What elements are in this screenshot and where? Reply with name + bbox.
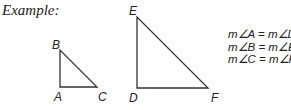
diagram: Example: B A C E D F m∠A = m∠D m∠B = m∠E… [0, 0, 291, 110]
equation-c-f: m∠C = m∠F [228, 53, 291, 66]
angle-equations: m∠A = m∠D m∠B = m∠E m∠C = m∠F [228, 28, 291, 66]
vertex-label-f: F [211, 91, 218, 105]
vertex-label-c: C [98, 90, 107, 104]
vertex-label-d: D [129, 91, 138, 105]
small-right-triangle [60, 50, 97, 87]
vertex-label-e: E [129, 4, 137, 18]
vertex-label-a: A [54, 90, 62, 104]
large-right-triangle [137, 17, 208, 88]
vertex-label-b: B [52, 38, 60, 52]
equation-b-e: m∠B = m∠E [228, 41, 291, 54]
equation-a-d: m∠A = m∠D [228, 28, 291, 41]
